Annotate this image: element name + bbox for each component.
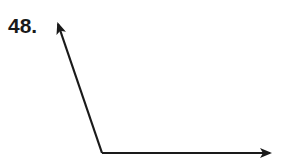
ray-up-left (58, 24, 102, 153)
angle-diagram (0, 0, 288, 168)
